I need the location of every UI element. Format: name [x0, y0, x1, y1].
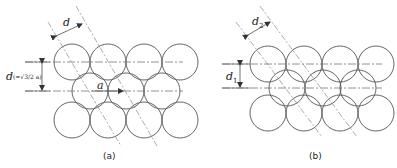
row-gap-label: d: [6, 70, 13, 83]
atom-circle: [126, 102, 162, 138]
lattice-plane-line: [236, 22, 322, 137]
panel-b-caption: (b): [309, 151, 322, 161]
panel-a: d d (=√3/2 a) a (a): [6, 6, 198, 161]
row-gap-label: d: [226, 70, 233, 83]
panel-b: d 2 d 1 (b): [222, 6, 394, 161]
plane-spacing-label: d: [252, 15, 259, 28]
plane-spacing-label: d: [63, 16, 70, 29]
atom-circle: [90, 102, 126, 138]
plane-spacing-subscript: 2: [259, 22, 263, 30]
lattice-plane-line: [76, 6, 157, 146]
lattice-plane-line: [48, 22, 121, 146]
panel-b-circles: [250, 46, 394, 131]
atom-circle: [250, 95, 286, 131]
atom-circle: [358, 95, 394, 131]
row-gap-subscript: 1: [233, 77, 237, 85]
packing-diagram: d d (=√3/2 a) a (a) d 2 d 1 (b): [0, 0, 397, 168]
row-gap-formula: (=√3/2 a): [13, 73, 42, 80]
atom-circle: [54, 102, 90, 138]
lattice-plane-line: [260, 6, 357, 137]
panel-a-caption: (a): [103, 151, 116, 161]
atom-circle: [322, 95, 358, 131]
neighbor-distance-label: a: [97, 79, 104, 92]
atom-circle: [162, 102, 198, 138]
